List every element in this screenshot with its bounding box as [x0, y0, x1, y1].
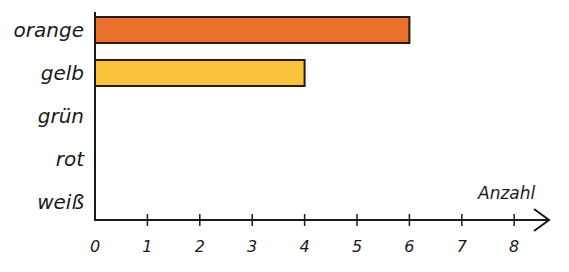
bar-chart: orangegelbgrünrotweiß 012345678 Anzahl [0, 0, 569, 272]
category-label-gelb: gelb [41, 61, 84, 85]
x-tick-label: 2 [195, 237, 205, 256]
x-tick-label: 8 [509, 237, 519, 256]
category-label-weiß: weiß [37, 190, 84, 214]
x-axis-label: Anzahl [477, 183, 536, 203]
x-tick-label: 6 [404, 237, 414, 256]
bars-group [95, 17, 409, 86]
x-tick-label: 1 [142, 237, 152, 256]
x-tick-label: 0 [90, 237, 100, 256]
x-tick-label: 5 [352, 237, 362, 256]
category-label-rot: rot [56, 147, 85, 171]
x-tick-label: 3 [247, 237, 257, 256]
category-label-orange: orange [14, 18, 84, 42]
bar-orange [95, 17, 409, 43]
category-labels: orangegelbgrünrotweiß [14, 18, 86, 214]
x-tick-label: 4 [300, 237, 310, 256]
category-label-grün: grün [38, 104, 84, 128]
bar-gelb [95, 60, 305, 86]
x-tick-label: 7 [457, 237, 468, 256]
